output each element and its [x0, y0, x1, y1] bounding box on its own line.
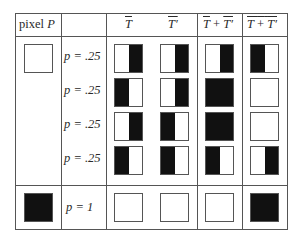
prob-label-row1: p = .25 — [64, 50, 101, 63]
stack-row1 — [205, 44, 234, 73]
stack-row4 — [205, 146, 234, 175]
prob-label-row4: p = .25 — [64, 152, 101, 165]
header-neg-plus: + — [257, 17, 264, 31]
share-t-row4 — [114, 146, 143, 175]
table-top-border — [15, 13, 288, 14]
prob-label-row2: p = .25 — [64, 84, 101, 97]
share-t-row2 — [114, 78, 143, 107]
header-neg-t: T — [247, 17, 254, 31]
header-sum-plus: + — [213, 17, 220, 31]
header-pixel-p: pixel P — [19, 18, 55, 31]
negated-row2 — [250, 78, 279, 107]
col-divider-3 — [197, 13, 198, 230]
header-t-bar: T — [125, 18, 132, 31]
stack-row2 — [205, 78, 234, 107]
share-t-row5 — [114, 193, 143, 222]
col-divider-1 — [61, 13, 62, 230]
stack-row3 — [205, 112, 234, 141]
header-neg-t-prime: T′ — [267, 17, 277, 31]
table-left-border — [15, 13, 16, 230]
table-right-border — [287, 13, 288, 230]
last-row-top-border — [15, 185, 288, 186]
share-t-prime-row5 — [160, 193, 189, 222]
table-bottom-border — [15, 229, 288, 230]
share-t-row3 — [114, 112, 143, 141]
negated-row3 — [250, 112, 279, 141]
share-t-prime-row1 — [160, 44, 189, 73]
col-divider-4 — [242, 13, 243, 230]
header-t-plus-t-prime: T + T′ — [203, 18, 233, 31]
header-pixel-var: P — [47, 17, 55, 31]
negated-row5 — [250, 193, 279, 222]
prob-label-row5: p = 1 — [66, 201, 93, 214]
share-t-prime-row2 — [160, 78, 189, 107]
stack-row5 — [205, 193, 234, 222]
pixel-black-box — [24, 193, 53, 222]
header-bottom-border — [15, 36, 288, 37]
pixel-white-box — [24, 44, 53, 73]
share-t-prime-row4 — [160, 146, 189, 175]
share-t-prime-row3 — [160, 112, 189, 141]
header-sum-t-prime: T′ — [223, 17, 233, 31]
header-t-prime-bar: T′ — [168, 18, 178, 31]
share-t-row1 — [114, 44, 143, 73]
header-pixel-word: pixel — [19, 17, 44, 31]
header-sum-t: T — [203, 17, 210, 31]
col-divider-2 — [106, 13, 107, 230]
prob-label-row3: p = .25 — [64, 118, 101, 131]
header-negated-sum: T + T′ — [247, 18, 277, 31]
negated-row4 — [250, 146, 279, 175]
negated-row1 — [250, 44, 279, 73]
